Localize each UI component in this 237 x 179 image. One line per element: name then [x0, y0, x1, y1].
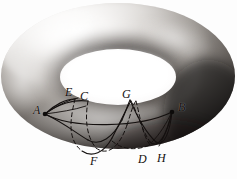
point-marker-a	[43, 112, 48, 117]
point-label-a: A	[33, 104, 40, 116]
point-label-e: E	[65, 86, 72, 98]
point-label-f: F	[90, 155, 97, 167]
torus-figure: A B C D E F G H	[0, 0, 237, 179]
point-label-c: C	[80, 90, 88, 102]
point-label-g: G	[122, 88, 131, 100]
point-marker-b	[170, 110, 175, 115]
point-label-d: D	[138, 153, 147, 165]
torus-illustration	[0, 0, 237, 179]
point-label-h: H	[157, 152, 166, 164]
point-label-b: B	[178, 101, 185, 113]
torus-hole	[60, 49, 176, 105]
